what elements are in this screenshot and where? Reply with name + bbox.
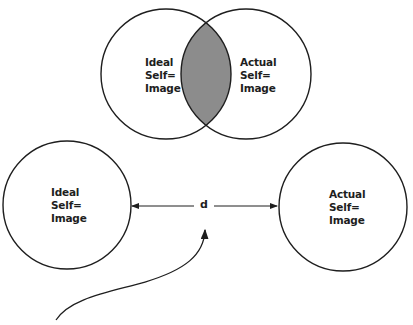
diagram-canvas bbox=[0, 0, 413, 325]
bottom-ideal-label: Ideal Self= Image bbox=[51, 186, 87, 225]
top-actual-label: Actual Self= Image bbox=[240, 56, 276, 95]
curved-pointer-arrow bbox=[56, 230, 205, 320]
top-ideal-label: Ideal Self= Image bbox=[145, 56, 181, 95]
bottom-actual-label: Actual Self= Image bbox=[329, 188, 365, 227]
distance-label: d bbox=[200, 198, 208, 211]
